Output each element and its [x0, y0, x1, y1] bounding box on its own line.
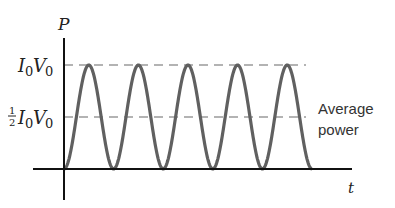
svg-text:0: 0 — [45, 116, 53, 131]
power-chart: P t I 0 V 0 1 2 I 0 V 0 Average power — [0, 0, 395, 208]
svg-text:1: 1 — [9, 105, 15, 116]
y-axis-label: P — [57, 14, 70, 34]
svg-text:2: 2 — [9, 117, 15, 128]
x-axis-label: t — [348, 179, 355, 197]
average-power-annotation-line1: Average — [318, 100, 374, 117]
peak-tick-label: I 0 V 0 — [17, 55, 53, 79]
half-tick-label: 1 2 I 0 V 0 — [8, 105, 53, 131]
average-power-annotation-line2: power — [318, 121, 359, 138]
svg-text:0: 0 — [45, 64, 53, 79]
